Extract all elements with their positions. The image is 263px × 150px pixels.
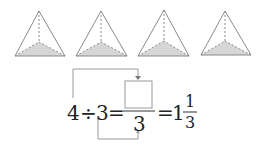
pyramid-icon-4 bbox=[201, 11, 251, 55]
pyramid-icon-3 bbox=[138, 10, 189, 56]
fraction-denominator: 3 bbox=[185, 115, 195, 131]
dividend: 4 bbox=[67, 103, 80, 123]
diagram: 4 ÷ 3 = 3 = 1 1 3 bbox=[0, 0, 263, 150]
numerator-answer-box[interactable] bbox=[125, 81, 152, 108]
pyramid-icon-2 bbox=[76, 11, 127, 56]
equals-sign-1: = bbox=[108, 103, 125, 123]
pyramid-icon-1 bbox=[15, 11, 65, 56]
fraction-numerator: 1 bbox=[185, 94, 195, 110]
divisor: 3 bbox=[96, 103, 109, 123]
whole-number: 1 bbox=[172, 103, 185, 123]
denominator: 3 bbox=[133, 114, 146, 134]
division-sign: ÷ bbox=[80, 103, 97, 123]
